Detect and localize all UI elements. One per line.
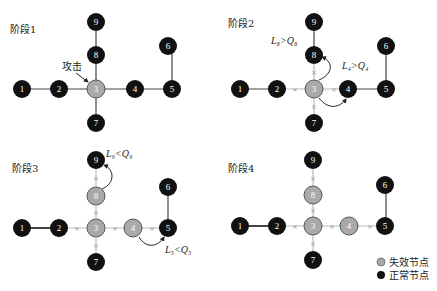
svg-text:4: 4: [131, 223, 136, 233]
svg-text:4: 4: [346, 84, 351, 94]
svg-text:×: ×: [292, 223, 298, 231]
stage-title: 阶段2: [228, 17, 254, 29]
svg-text:×: ×: [310, 207, 316, 215]
attack-arrow-icon: [76, 73, 88, 82]
normal-node-legend-icon: [377, 271, 385, 279]
cascade-arrow-icon: [319, 98, 346, 106]
node-8: 8: [305, 46, 323, 64]
node-3-failed: 3: [87, 80, 105, 98]
node-1: 1: [231, 80, 249, 98]
svg-text:6: 6: [384, 41, 389, 51]
svg-text:×: ×: [93, 209, 99, 217]
svg-text:9: 9: [94, 155, 99, 165]
condition-l9: L₉<Q₉: [105, 148, 133, 159]
node-9: 9: [305, 13, 323, 31]
condition-l8: L₈>Q₈: [270, 35, 298, 46]
panel-stage-3: 阶段3 ××× ××× 1 2 3 4 5 6 7 8 9 L₉<Q₉ L₅<Q…: [12, 148, 192, 271]
svg-text:2: 2: [57, 84, 62, 94]
svg-text:9: 9: [312, 17, 317, 27]
svg-text:5: 5: [166, 223, 171, 233]
svg-text:9: 9: [94, 17, 99, 27]
svg-text:×: ×: [331, 86, 337, 94]
node-5: 5: [377, 80, 395, 98]
svg-text:6: 6: [383, 180, 388, 190]
panel-stage-4: 阶段4 ××× ××× 1 2 3 4 5 6 7 8 9 失效节点 正常节点: [228, 151, 429, 281]
svg-text:×: ×: [292, 86, 298, 94]
stage-title: 阶段4: [228, 162, 254, 174]
svg-text:5: 5: [383, 221, 388, 231]
svg-text:6: 6: [166, 182, 171, 192]
svg-text:8: 8: [312, 50, 317, 60]
svg-text:3: 3: [312, 84, 317, 94]
svg-text:6: 6: [166, 41, 171, 51]
node-6: 6: [159, 37, 177, 55]
svg-text:9: 9: [311, 155, 316, 165]
node-4: 4: [339, 80, 357, 98]
panel-stage-2: 阶段2 ×××× 1 2 3 4 5 6 7 8 9 L₈>Q₈ L₄>Q₄: [228, 13, 395, 132]
svg-text:1: 1: [20, 223, 25, 233]
svg-text:2: 2: [57, 223, 62, 233]
svg-text:×: ×: [310, 175, 316, 183]
svg-text:5: 5: [384, 84, 389, 94]
svg-text:×: ×: [112, 225, 118, 233]
svg-text:3: 3: [311, 221, 316, 231]
svg-text:×: ×: [74, 225, 80, 233]
cut-mark-icon: ××× ×××: [292, 175, 373, 248]
node-8-failed: 8: [87, 187, 105, 205]
svg-text:2: 2: [275, 221, 280, 231]
node-1: 1: [13, 80, 31, 98]
svg-text:5: 5: [170, 84, 175, 94]
svg-text:7: 7: [312, 118, 317, 128]
svg-text:3: 3: [94, 223, 99, 233]
node-4: 4: [126, 80, 144, 98]
node-8: 8: [87, 46, 105, 64]
node-7: 7: [305, 114, 323, 132]
cascade-diagram: 阶段1 1 2 3 4 5 6 7 8 9 攻击 阶段2 ××××: [0, 0, 437, 291]
legend: 失效节点 正常节点: [377, 256, 429, 281]
node-2: 2: [268, 80, 286, 98]
svg-text:×: ×: [93, 175, 99, 183]
failed-node-legend-icon: [377, 258, 385, 266]
svg-text:4: 4: [133, 84, 138, 94]
node-9: 9: [87, 13, 105, 31]
svg-text:1: 1: [20, 84, 25, 94]
svg-text:3: 3: [94, 84, 99, 94]
stage-title: 阶段3: [12, 162, 38, 174]
legend-normal: 正常节点: [389, 269, 429, 281]
stage-title: 阶段1: [10, 23, 36, 35]
svg-text:×: ×: [311, 103, 317, 111]
attack-label: 攻击: [62, 60, 82, 72]
panel-stage-1: 阶段1 1 2 3 4 5 6 7 8 9 攻击: [10, 13, 181, 132]
svg-text:4: 4: [347, 221, 352, 231]
cut-mark-icon: ××× ×××: [74, 175, 155, 250]
svg-text:×: ×: [311, 69, 317, 77]
svg-text:2: 2: [275, 84, 280, 94]
node-3-failed: 3: [305, 80, 323, 98]
svg-text:7: 7: [94, 118, 99, 128]
svg-text:1: 1: [238, 84, 243, 94]
node-2: 2: [50, 80, 68, 98]
svg-text:1: 1: [238, 221, 243, 231]
svg-text:7: 7: [311, 255, 316, 265]
svg-text:8: 8: [311, 190, 316, 200]
svg-text:8: 8: [94, 191, 99, 201]
node-7: 7: [87, 114, 105, 132]
svg-text:×: ×: [93, 242, 99, 250]
legend-failed: 失效节点: [389, 256, 429, 268]
node-3-failed: 3: [87, 219, 105, 237]
svg-text:7: 7: [94, 257, 99, 267]
svg-text:×: ×: [310, 240, 316, 248]
node-4-failed: 4: [124, 219, 142, 237]
svg-text:×: ×: [149, 225, 155, 233]
svg-text:×: ×: [329, 223, 335, 231]
node-6: 6: [377, 37, 395, 55]
svg-text:8: 8: [94, 50, 99, 60]
node-5: 5: [163, 80, 181, 98]
condition-l5: L₅<Q₅: [164, 244, 192, 255]
svg-text:×: ×: [367, 223, 373, 231]
condition-l4: L₄>Q₄: [341, 60, 369, 71]
